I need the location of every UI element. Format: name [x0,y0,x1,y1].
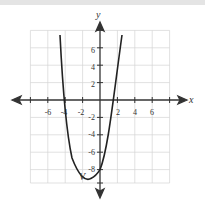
x-axis-left-arrow-icon [12,96,21,104]
x-tick-label: 4 [133,108,137,117]
y-tick-label: 6 [91,46,95,55]
parabola-curve [60,35,122,179]
vertex-label: V [79,171,87,182]
y-tick-label: -6 [88,148,95,157]
y-tick-label: -2 [88,113,95,122]
x-tick-label: 2 [116,108,120,117]
y-tick-label: 4 [91,63,95,72]
parabola-chart: -6 -4 -2 2 4 6 6 4 2 -2 -4 -6 -8 x y V [0,0,205,210]
x-axis-right-arrow-icon [178,96,187,104]
x-tick-labels: -6 -4 -2 2 4 6 [45,108,154,117]
y-tick-label: -8 [88,165,95,174]
x-tick-label: 6 [150,108,154,117]
x-tick-label: -2 [78,108,85,117]
x-tick-label: -6 [45,108,52,117]
y-axis-down-arrow-icon [96,189,104,198]
y-axis-label: y [95,9,101,20]
y-tick-label: -4 [88,130,95,139]
y-tick-label: 2 [91,80,95,89]
y-axis-up-arrow-icon [96,22,104,31]
x-axis-label: x [188,94,194,105]
